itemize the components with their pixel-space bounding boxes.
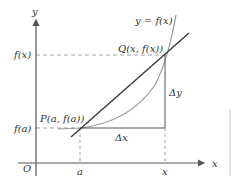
- y-axis-label: y: [31, 6, 38, 17]
- a-tick-label: a: [77, 166, 83, 177]
- x-tick-label: x: [162, 166, 168, 177]
- point-p-label: P(a, f(a)): [39, 113, 84, 124]
- delta-y-label: Δy: [168, 87, 182, 98]
- point-q-label: Q(x, f(x)): [118, 43, 163, 54]
- fa-tick-label: f(a): [13, 123, 32, 134]
- function-curve: [58, 15, 176, 129]
- fx-tick-label: f(x): [13, 49, 31, 60]
- delta-x-label: Δx: [114, 132, 128, 143]
- secant-diagram: y x O f(x) f(a) a x y = f(x) Q(x, f(x)) …: [0, 0, 235, 178]
- x-axis-label: x: [212, 158, 218, 169]
- curve-label: y = f(x): [134, 15, 173, 26]
- origin-label: O: [23, 163, 31, 174]
